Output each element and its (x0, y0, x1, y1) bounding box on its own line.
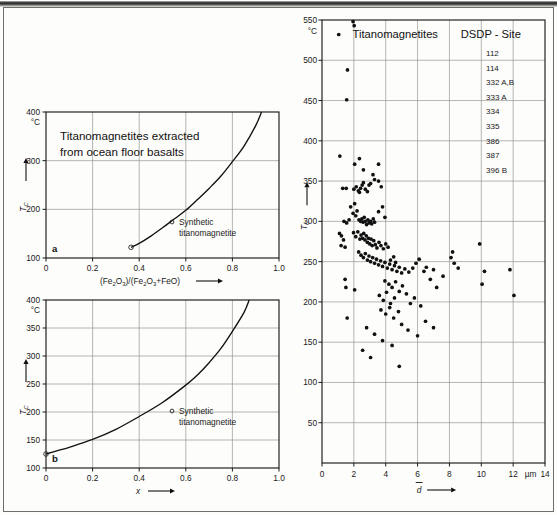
data-point (478, 242, 482, 246)
data-point (417, 257, 421, 261)
svg-text:d: d (417, 485, 422, 495)
data-point (377, 179, 381, 183)
svg-text:0.2: 0.2 (87, 263, 99, 273)
data-point (371, 256, 375, 260)
panel-b-chart: 00.20.40.60.81.0100150200250300350400°CT… (0, 290, 290, 505)
data-point (344, 286, 348, 290)
svg-text:450: 450 (303, 96, 317, 106)
data-point (373, 332, 377, 336)
panel-a-xlabel-arrow (196, 278, 223, 283)
svg-text:0.6: 0.6 (180, 263, 192, 273)
data-point (381, 205, 385, 209)
data-point (381, 265, 385, 269)
svg-text:6: 6 (415, 469, 420, 479)
data-point (480, 282, 484, 286)
data-point (432, 326, 436, 330)
data-point (379, 259, 383, 263)
site-list-item: 332 A,B (486, 78, 514, 87)
data-point (366, 190, 370, 194)
data-point (389, 258, 393, 262)
data-point (363, 252, 367, 256)
data-point (359, 186, 363, 190)
svg-text:100: 100 (303, 377, 317, 387)
data-point (428, 278, 432, 282)
data-point (414, 261, 418, 265)
data-point (392, 316, 396, 320)
data-point (394, 261, 398, 265)
data-point (379, 308, 383, 312)
data-point (340, 234, 344, 238)
data-point (362, 168, 366, 172)
data-point (395, 269, 399, 273)
data-point (419, 304, 423, 308)
data-point (345, 316, 349, 320)
data-point (343, 245, 347, 249)
svg-text:14: 14 (540, 469, 550, 479)
data-point (356, 230, 360, 234)
panel-a-letter: a (52, 243, 58, 254)
panel-a-yunit: °C (31, 117, 40, 127)
data-point (390, 286, 394, 290)
panel-b-ytick-labels: 100150200250300350400 (26, 295, 40, 473)
data-point (393, 296, 397, 300)
panel-b-ticks (43, 300, 280, 472)
panel-a-ytick-labels: 100200300400 (26, 107, 40, 263)
data-point (352, 231, 356, 235)
data-point (366, 258, 370, 262)
data-point (373, 178, 377, 182)
data-point (483, 269, 487, 273)
site-list-item: 333 A (486, 93, 507, 102)
data-point (375, 257, 379, 261)
panel-b-curve (46, 300, 249, 454)
data-point (388, 306, 392, 310)
panel-a-title: Titanomagnetites extractedfrom ocean flo… (60, 129, 199, 158)
data-point (347, 218, 351, 222)
svg-text:titanomagnetite: titanomagnetite (179, 228, 237, 238)
svg-text:50: 50 (308, 418, 318, 428)
panel-c-xlabel-arrow (427, 487, 456, 492)
data-point (344, 186, 348, 190)
data-point (371, 173, 375, 177)
data-point (389, 302, 393, 306)
data-point (354, 235, 358, 239)
data-point (383, 261, 387, 265)
data-point (353, 162, 357, 166)
data-point (397, 265, 401, 269)
svg-text:500: 500 (303, 55, 317, 65)
data-point (342, 238, 346, 242)
data-point (369, 182, 373, 186)
data-point (373, 261, 377, 265)
data-point (383, 279, 387, 283)
panel-c-legend-title: DSDP - Site (461, 28, 521, 40)
data-point (367, 254, 371, 258)
svg-text:Titanomagnetites extracted: Titanomagnetites extracted (60, 129, 199, 142)
data-point (349, 205, 353, 209)
data-point (397, 365, 401, 369)
panel-a-ylabel: TC (18, 202, 29, 212)
svg-text:0.2: 0.2 (87, 473, 99, 483)
svg-text:1.0: 1.0 (273, 473, 285, 483)
data-point (354, 214, 358, 218)
site-list-item: 387 (486, 151, 500, 160)
data-point (424, 265, 428, 269)
data-point (377, 210, 381, 214)
svg-text:from ocean floor basalts: from ocean floor basalts (60, 145, 184, 158)
svg-text:TC: TC (18, 405, 29, 415)
data-point (341, 186, 345, 190)
data-point (379, 244, 383, 248)
svg-text:0.8: 0.8 (227, 473, 239, 483)
panel-b-ylabel: TC (18, 405, 29, 415)
panel-b-yunit: °C (31, 305, 40, 315)
data-point (413, 296, 417, 300)
panel-b-xlabel: x (135, 486, 141, 496)
data-point (358, 191, 362, 195)
data-point (392, 255, 396, 259)
svg-text:8: 8 (447, 469, 452, 479)
svg-text:300: 300 (26, 156, 40, 166)
legend-marker-icon (170, 409, 174, 413)
data-point (379, 185, 383, 189)
data-point (403, 267, 407, 271)
data-point (339, 244, 343, 248)
svg-text:TC: TC (299, 220, 310, 230)
panel-c-ylabel: TC (299, 220, 310, 230)
